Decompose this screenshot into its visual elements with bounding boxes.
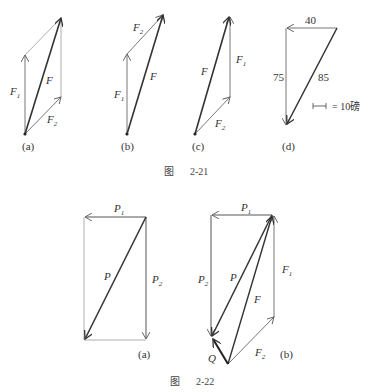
caption-fig-2-22-prefix: 图 (170, 376, 180, 387)
label-q: Q (208, 352, 216, 364)
label-f2: F2 (46, 113, 58, 128)
label-f2: F2 (214, 117, 226, 132)
panel-label-b: (b) (121, 140, 134, 153)
label-40: 40 (305, 14, 317, 26)
label-f: F (200, 65, 208, 77)
fig-2-21-panel-a: F1 F F2 (a) (9, 18, 61, 153)
origin-point (23, 132, 26, 135)
panel-label-a: (a) (138, 348, 151, 361)
vector-p-resultant (85, 217, 146, 339)
diagram-canvas: F1 F F2 (a) F1 F F2 (b) F F1 F2 (c) 40 7… (0, 0, 371, 392)
panel-label-b: (b) (280, 348, 293, 361)
label-f2: F2 (132, 21, 144, 36)
label-p: P (229, 271, 237, 283)
panel-label-d: (d) (282, 140, 295, 153)
scale-bar (313, 103, 326, 109)
fig-2-21-panel-d: 40 75 85 = 10磅 (d) (273, 14, 360, 153)
label-75: 75 (273, 71, 285, 83)
label-f: F (149, 70, 157, 82)
caption-fig-2-21-number: 2-21 (190, 166, 208, 177)
label-85: 85 (318, 71, 330, 83)
label-f1: F1 (281, 263, 292, 278)
caption-fig-2-21-prefix: 图 (164, 166, 174, 177)
label-f2: F2 (254, 346, 266, 361)
label-f1: F1 (9, 85, 20, 100)
fig-2-22-panel-b: P1 P2 P F F1 F2 Q (b) (197, 201, 293, 364)
caption-fig-2-22-number: 2-22 (196, 376, 214, 387)
label-p2: P2 (197, 273, 209, 288)
label-f: F (253, 293, 261, 305)
label-f1: F1 (235, 53, 246, 68)
vector-85 (287, 28, 337, 124)
fig-2-21-panel-b: F1 F F2 (b) (113, 15, 163, 153)
label-p1: P1 (113, 202, 124, 217)
panel-label-a: (a) (22, 140, 35, 153)
label-f: F (45, 74, 53, 86)
label-p: P (103, 270, 111, 282)
origin-point (125, 132, 128, 135)
fig-2-22-panel-a: P1 P P2 (a) (84, 202, 163, 361)
label-p2: P2 (151, 273, 163, 288)
scale-label: = 10磅 (332, 100, 360, 112)
panel-label-c: (c) (192, 140, 205, 153)
vector-f-resultant (25, 18, 61, 134)
fig-2-21-panel-c: F F1 F2 (c) (192, 17, 246, 153)
origin-point (193, 132, 196, 135)
label-p1: P1 (240, 201, 251, 216)
label-f1: F1 (113, 88, 124, 103)
